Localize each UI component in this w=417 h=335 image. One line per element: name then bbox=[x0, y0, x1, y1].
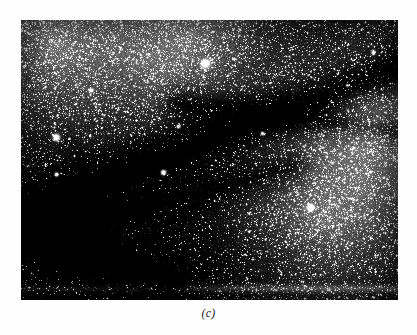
figure-container: (c) bbox=[0, 0, 417, 335]
figure-caption: (c) bbox=[0, 306, 417, 321]
astronomical-photo-plate bbox=[21, 20, 398, 300]
starfield-image bbox=[21, 20, 398, 300]
